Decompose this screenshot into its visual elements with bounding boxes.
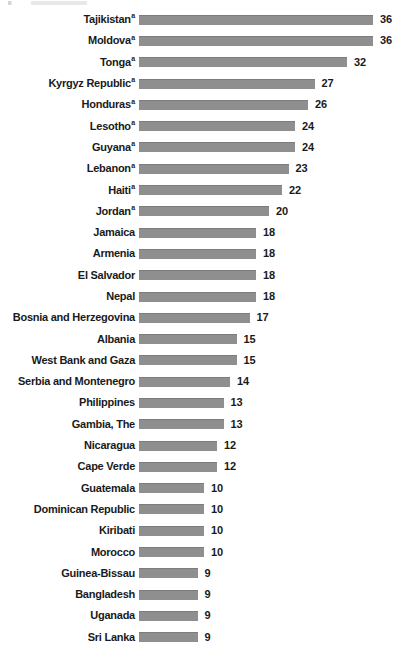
category-label: Bosnia and Herzegovina [0,312,135,323]
footnote-marker: a [131,76,135,83]
value-label: 20 [276,206,288,217]
value-label: 15 [244,334,256,345]
value-label: 23 [296,163,308,174]
value-label: 12 [224,461,236,472]
value-label: 10 [211,504,223,515]
bar-area: 9 [139,563,210,584]
chart-row: Haitia22 [0,179,407,200]
value-label: 10 [211,483,223,494]
footnote-marker: a [131,12,135,19]
chart-row: Guyanaa24 [0,137,407,158]
value-label: 13 [231,419,243,430]
category-label: Tajikistana [0,14,135,25]
bar-area: 10 [139,499,223,520]
value-label: 24 [302,142,314,153]
bar-area: 18 [139,243,275,264]
chart-row: Serbia and Montenegro14 [0,371,407,392]
value-label: 32 [354,57,366,68]
bar-area: 36 [139,30,392,51]
chart-row: Philippines13 [0,392,407,413]
value-label: 13 [231,397,243,408]
bar [139,36,373,46]
bar-area: 18 [139,286,275,307]
bar [139,526,204,536]
value-label: 36 [380,14,392,25]
chart-row: Jamaica18 [0,222,407,243]
value-label: 9 [205,610,211,621]
chart-row: Tajikistana36 [0,9,407,30]
chart-row: Armenia18 [0,243,407,264]
chart-row: Gambia, The13 [0,414,407,435]
bar-area: 17 [139,307,268,328]
footnote-marker: a [131,119,135,126]
bar-area: 13 [139,392,242,413]
bar [139,121,295,131]
footnote-marker: a [131,204,135,211]
bar [139,377,230,387]
bar-area: 9 [139,584,210,605]
bar-area: 12 [139,456,236,477]
category-label: El Salvador [0,270,135,281]
value-label: 18 [263,248,275,259]
bar-area: 26 [139,94,327,115]
chart-row: Bosnia and Herzegovina17 [0,307,407,328]
footnote-marker: a [131,98,135,105]
category-label: Serbia and Montenegro [0,376,135,387]
bar-area: 9 [139,627,210,646]
chart-row: Kiribati10 [0,520,407,541]
category-label: Lebanona [0,163,135,174]
chart-row: Nepal18 [0,286,407,307]
category-label: Hondurasa [0,99,135,110]
bar [139,57,347,67]
footnote-marker: a [131,183,135,190]
bar [139,185,282,195]
chart-row: El Salvador18 [0,265,407,286]
bar-area: 20 [139,201,288,222]
bar [139,206,269,216]
chart-row: Guinea-Bissau9 [0,563,407,584]
chart-row: Cape Verde12 [0,456,407,477]
bar [139,398,224,408]
bar-area: 15 [139,350,255,371]
category-label: Sri Lanka [0,632,135,643]
bar-area: 24 [139,137,314,158]
footnote-marker: a [131,34,135,41]
value-label: 17 [257,312,269,323]
category-label: Uganada [0,610,135,621]
category-label: Cape Verde [0,461,135,472]
value-label: 24 [302,121,314,132]
value-label: 18 [263,270,275,281]
bar [139,504,204,514]
bar [139,355,237,365]
bar [139,611,198,621]
value-label: 12 [224,440,236,451]
value-label: 14 [237,376,249,387]
chart-row: Moldovaa36 [0,30,407,51]
bar [139,15,373,25]
bar-area: 15 [139,328,255,349]
category-label: Jamaica [0,227,135,238]
chart-row: Uganada9 [0,605,407,626]
bar-area: 27 [139,73,333,94]
chart-row: Kyrgyz Republica27 [0,73,407,94]
category-label: Gambia, The [0,419,135,430]
bar [139,568,198,578]
value-label: 18 [263,291,275,302]
bar-area: 10 [139,520,223,541]
bar-area: 18 [139,265,275,286]
bar [139,441,217,451]
footnote-marker: a [131,55,135,62]
category-label: Armenia [0,248,135,259]
bar [139,164,289,174]
chart-row: Jordana20 [0,201,407,222]
category-label: Guatemala [0,483,135,494]
chart-row: West Bank and Gaza15 [0,350,407,371]
category-label: West Bank and Gaza [0,355,135,366]
bar [139,462,217,472]
bar [139,249,256,259]
chart-rows: Tajikistana36Moldovaa36Tongaa32Kyrgyz Re… [0,9,407,646]
value-label: 27 [322,78,334,89]
value-label: 18 [263,227,275,238]
category-label: Lesothoa [0,121,135,132]
chart-row: Nicaragua12 [0,435,407,456]
